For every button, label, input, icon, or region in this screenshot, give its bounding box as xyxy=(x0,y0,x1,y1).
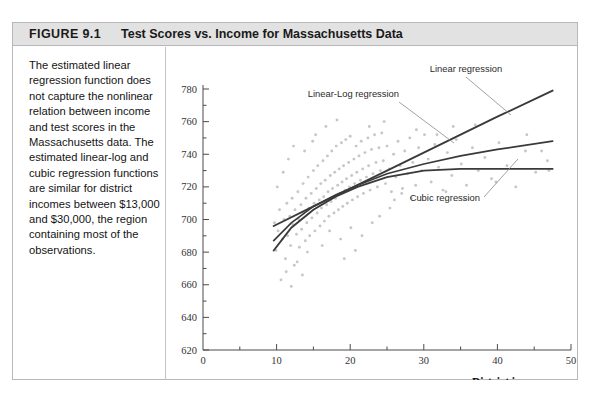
scatter-point xyxy=(430,181,433,184)
scatter-point xyxy=(327,190,330,193)
scatter-point xyxy=(319,182,322,185)
scatter-point xyxy=(352,158,355,161)
figure-number: FIGURE 9.1 xyxy=(29,27,101,41)
scatter-point xyxy=(315,187,318,190)
scatter-point xyxy=(546,159,549,162)
scatter-point xyxy=(300,228,303,231)
scatter-point xyxy=(327,215,330,218)
scatter-plot: 62064066068070072074076078001020304050Di… xyxy=(166,47,578,380)
scatter-point xyxy=(322,159,325,162)
scatter-point xyxy=(361,167,364,170)
scatter-point xyxy=(282,171,285,174)
scatter-point xyxy=(303,150,306,153)
scatter-point xyxy=(301,274,304,277)
scatter-point xyxy=(367,164,370,167)
regression-curve-cubic xyxy=(274,169,553,251)
y-tick-label: 760 xyxy=(181,116,197,127)
scatter-point xyxy=(359,179,362,182)
scatter-point xyxy=(354,249,357,252)
leader-line-cubic xyxy=(484,159,518,197)
scatter-point xyxy=(333,212,336,215)
scatter-point xyxy=(302,182,305,185)
scatter-point xyxy=(368,125,371,128)
scatter-point xyxy=(382,159,385,162)
scatter-point xyxy=(362,192,365,195)
scatter-point xyxy=(308,234,311,237)
scatter-point xyxy=(401,187,404,190)
y-tick-label: 740 xyxy=(181,149,197,160)
figure-caption: The estimated linear regression function… xyxy=(29,58,164,258)
scatter-point xyxy=(278,208,281,211)
scatter-point xyxy=(363,151,366,154)
scatter-point xyxy=(437,166,440,169)
y-tick-label: 720 xyxy=(181,181,197,192)
scatter-point xyxy=(298,246,301,249)
scatter-point xyxy=(490,177,493,180)
scatter-point xyxy=(427,158,430,161)
scatter-point xyxy=(294,208,297,211)
scatter-point xyxy=(471,146,474,149)
scatter-point xyxy=(411,161,414,164)
scatter-point xyxy=(339,238,342,241)
y-tick-label: 700 xyxy=(181,214,197,225)
scatter-point xyxy=(358,154,361,157)
scatter-point xyxy=(290,285,293,288)
scatter-point xyxy=(351,198,354,201)
scatter-point xyxy=(408,136,411,139)
x-tick-label: 50 xyxy=(566,355,577,366)
scatter-point xyxy=(335,145,338,148)
scatter-point xyxy=(285,202,288,205)
scatter-point xyxy=(497,141,500,144)
scatter-point xyxy=(325,203,328,206)
axes-group xyxy=(203,85,571,350)
scatter-point xyxy=(350,174,353,177)
scatter-point xyxy=(450,174,453,177)
curve-annotations-group: Linear regressionLinear-Log regressionCu… xyxy=(308,63,518,203)
scatter-points-group xyxy=(273,119,550,288)
plot-svg: 62064066068070072074076078001020304050Di… xyxy=(166,47,578,380)
scatter-point xyxy=(361,234,364,237)
scatter-point xyxy=(383,120,386,123)
scatter-point xyxy=(344,138,347,141)
scatter-point xyxy=(313,202,316,205)
scatter-point xyxy=(376,185,379,188)
scatter-point xyxy=(311,140,314,143)
scatter-point xyxy=(346,202,349,205)
scatter-point xyxy=(280,278,283,281)
scatter-point xyxy=(365,176,368,179)
y-tick-label: 620 xyxy=(181,345,197,356)
scatter-point xyxy=(371,221,374,224)
scatter-point xyxy=(329,174,332,177)
scatter-point xyxy=(474,123,477,126)
scatter-point xyxy=(388,207,391,210)
scatter-point xyxy=(349,135,352,138)
figure-panel: FIGURE 9.1 Test Scores vs. Income for Ma… xyxy=(12,22,578,380)
scatter-point xyxy=(323,220,326,223)
scatter-point xyxy=(328,229,331,232)
x-tick-label: 20 xyxy=(345,355,356,366)
scatter-point xyxy=(400,192,403,195)
scatter-point xyxy=(276,185,279,188)
scatter-point xyxy=(465,184,468,187)
scatter-point xyxy=(304,239,307,242)
scatter-point xyxy=(284,257,287,260)
scatter-point xyxy=(312,169,315,172)
scatter-point xyxy=(377,146,380,149)
figure-title: Test Scores vs. Income for Massachusetts… xyxy=(121,27,403,41)
scatter-point xyxy=(392,153,395,156)
scatter-point xyxy=(452,125,455,128)
y-tick-label: 780 xyxy=(181,84,197,95)
scatter-point xyxy=(353,182,356,185)
scatter-point xyxy=(336,184,339,187)
scatter-point xyxy=(293,264,296,267)
scatter-point xyxy=(460,163,463,166)
scatter-point xyxy=(296,260,299,263)
scatter-point xyxy=(369,189,372,192)
scatter-point xyxy=(316,212,319,215)
scatter-point xyxy=(287,158,290,161)
scatter-point xyxy=(375,161,378,164)
scatter-point xyxy=(320,207,323,210)
scatter-point xyxy=(380,132,383,135)
scatter-point xyxy=(322,195,325,198)
scatter-point xyxy=(291,197,294,200)
